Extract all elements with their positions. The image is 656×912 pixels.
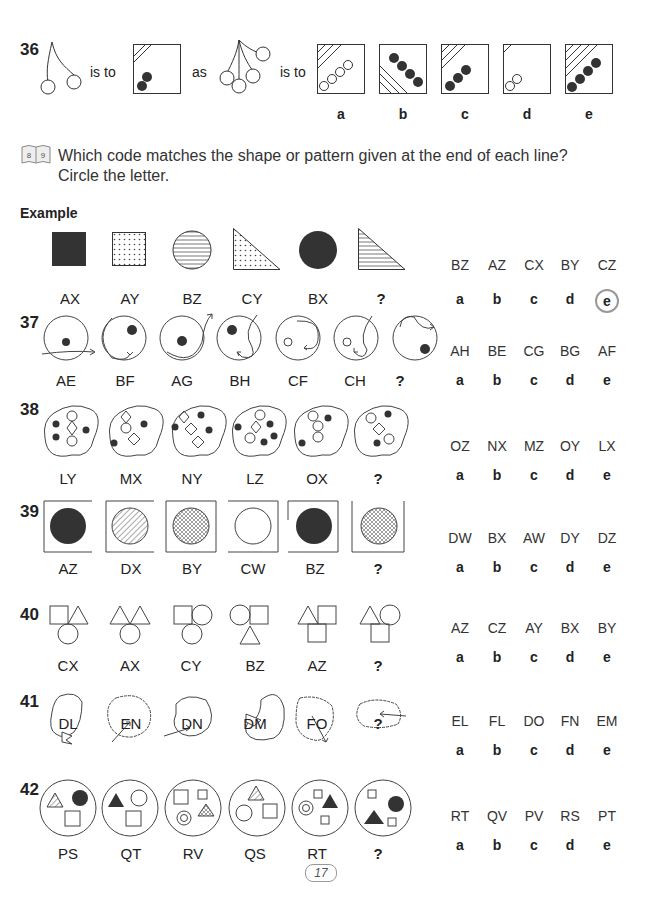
shape-code: CX: [38, 657, 98, 674]
answer-letter[interactable]: a: [440, 467, 480, 483]
answer-code: BE: [477, 343, 517, 359]
unknown-code: ?: [348, 470, 408, 487]
answer-letter[interactable]: d: [550, 742, 590, 758]
shape-code: AG: [152, 372, 212, 389]
answer-letter[interactable]: b: [477, 837, 517, 853]
answer-letter[interactable]: e: [587, 742, 627, 758]
option-e-figure[interactable]: [565, 44, 613, 94]
answer-letter[interactable]: e: [587, 559, 627, 575]
answer-letter[interactable]: b: [477, 559, 517, 575]
shape-code: AE: [36, 372, 96, 389]
answer-code: EL: [440, 713, 480, 729]
answer-letter[interactable]: a: [440, 372, 480, 388]
example-heading: Example: [20, 205, 78, 221]
svg-text:8: 8: [27, 151, 32, 160]
option-letter-c[interactable]: c: [445, 106, 485, 122]
answer-code: DY: [550, 530, 590, 546]
answer-letter[interactable]: a: [440, 837, 480, 853]
shape-code: RT: [287, 845, 347, 862]
answer-letter[interactable]: c: [514, 742, 554, 758]
shape-code: AX: [40, 290, 100, 307]
option-d-figure[interactable]: [503, 44, 551, 94]
answer-letter[interactable]: e: [587, 372, 627, 388]
q40-figures: [46, 604, 406, 654]
shape-code: AZ: [38, 560, 98, 577]
option-b-figure[interactable]: [379, 44, 427, 94]
answer-code: LX: [587, 438, 627, 454]
answer-letter[interactable]: b: [477, 649, 517, 665]
answer-letter[interactable]: e: [587, 649, 627, 665]
shape-code: QT: [101, 845, 161, 862]
dotted-square: [112, 232, 146, 266]
question-number: 37: [20, 313, 39, 333]
answer-letter[interactable]: d: [550, 837, 590, 853]
answer-code: BZ: [440, 257, 480, 273]
shape-code: BZ: [285, 560, 345, 577]
answer-letter[interactable]: c: [514, 559, 554, 575]
answer-letter[interactable]: c: [514, 372, 554, 388]
unknown-code: ?: [348, 715, 408, 732]
shape-code: FO: [287, 715, 347, 732]
option-letter-d[interactable]: d: [507, 106, 547, 122]
shape-code: CF: [268, 372, 328, 389]
answer-code: BX: [550, 620, 590, 636]
unknown-code: ?: [348, 657, 408, 674]
answer-code: AZ: [440, 620, 480, 636]
cherry-bunch-icon: [217, 38, 272, 96]
answer-code: AH: [440, 343, 480, 359]
answer-code: AY: [514, 620, 554, 636]
option-a-figure[interactable]: [317, 44, 365, 94]
option-letter-a[interactable]: a: [321, 106, 361, 122]
answer-letter[interactable]: c: [514, 837, 554, 853]
answer-code: NX: [477, 438, 517, 454]
answer-code: RS: [550, 808, 590, 824]
answer-letter-circled[interactable]: e: [587, 291, 627, 313]
answer-code: OY: [550, 438, 590, 454]
option-letter-b[interactable]: b: [383, 106, 423, 122]
dotted-triangle: [233, 228, 281, 270]
question-number: 36: [20, 40, 39, 60]
answer-letter[interactable]: a: [440, 559, 480, 575]
unknown-code: ?: [348, 845, 408, 862]
answer-code: PV: [514, 808, 554, 824]
book-icon: 8 9: [20, 144, 52, 166]
answer-letter[interactable]: d: [550, 649, 590, 665]
answer-code: BY: [550, 257, 590, 273]
option-letter-e[interactable]: e: [569, 106, 609, 122]
striped-circle: [172, 230, 212, 270]
shape-code: EN: [101, 715, 161, 732]
shape-code: NY: [162, 470, 222, 487]
unknown-code: ?: [348, 560, 408, 577]
answer-letter[interactable]: c: [514, 291, 554, 307]
answer-letter[interactable]: d: [550, 372, 590, 388]
answer-code: OZ: [440, 438, 480, 454]
answer-letter[interactable]: a: [440, 649, 480, 665]
striped-triangle: [358, 228, 406, 270]
answer-letter[interactable]: e: [587, 467, 627, 483]
answer-letter[interactable]: c: [514, 467, 554, 483]
question-number: 38: [20, 400, 39, 420]
answer-letter[interactable]: b: [477, 372, 517, 388]
answer-letter[interactable]: a: [440, 291, 480, 307]
answer-letter[interactable]: b: [477, 291, 517, 307]
answer-letter[interactable]: d: [550, 467, 590, 483]
answer-letter[interactable]: d: [550, 559, 590, 575]
shape-code: AZ: [287, 657, 347, 674]
answer-letter[interactable]: b: [477, 467, 517, 483]
shape-code: DX: [101, 560, 161, 577]
is-to-text: is to: [90, 64, 116, 80]
option-c-figure[interactable]: [441, 44, 489, 94]
answer-code: AZ: [477, 257, 517, 273]
question-number: 39: [20, 502, 39, 522]
answer-code: QV: [477, 808, 517, 824]
answer-letter[interactable]: d: [550, 291, 590, 307]
answer-letter[interactable]: b: [477, 742, 517, 758]
shape-code: BZ: [162, 290, 222, 307]
as-text: as: [192, 64, 207, 80]
shape-code: BZ: [225, 657, 285, 674]
answer-letter[interactable]: a: [440, 742, 480, 758]
answer-letter[interactable]: c: [514, 649, 554, 665]
answer-letter[interactable]: e: [587, 837, 627, 853]
shape-code: AX: [100, 657, 160, 674]
answer-code: CZ: [587, 257, 627, 273]
